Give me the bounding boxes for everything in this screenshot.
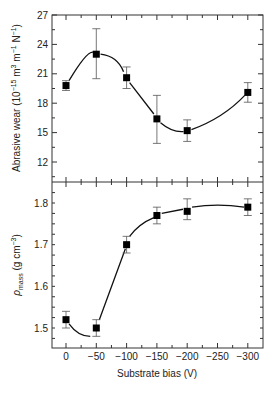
data-point [153,115,160,122]
data-point [63,316,70,323]
x-tick-labels: 0−50−100−150−200−250−300 [63,351,259,362]
data-point [123,74,130,81]
x-tick-label: −150 [146,351,169,362]
data-point [184,208,191,215]
y-tick-label: 27 [37,10,49,21]
y-tick-label: 15 [37,127,49,138]
x-tick-label: −300 [237,351,260,362]
data-point [123,241,130,248]
plot-frame [52,15,263,348]
x-tick-label: −200 [176,351,199,362]
x-tick-label: −100 [115,351,138,362]
top-y-ticks: 272421181512 [37,10,263,177]
y-tick-label: 12 [37,157,49,168]
chart-canvas: 0−50−100−150−200−250−300Substrate bias (… [0,0,277,393]
data-point [93,325,100,332]
data-point [93,51,100,58]
x-tick-label: −250 [206,351,229,362]
y-tick-label: 21 [37,68,49,79]
x-axis-label: Substrate bias (V) [117,368,197,379]
data-point [244,204,251,211]
x-tick-label: 0 [63,351,69,362]
x-tick-label: −50 [88,351,105,362]
y-tick-label: 1.7 [34,239,48,250]
top-y-axis-label: Abrasive wear (10−15 m3 m−1 N−1) [10,24,22,172]
y-tick-label: 1.6 [34,281,48,292]
fit-curve [69,205,244,336]
bottom-y-axis-label: ρmass (g cm−3) [10,234,24,297]
y-tick-label: 18 [37,98,49,109]
data-point [244,89,251,96]
data-point [63,82,70,89]
data-point [153,212,160,219]
y-tick-label: 24 [37,39,49,50]
abrasive-wear-series [62,29,252,144]
y-tick-label: 1.8 [34,198,48,209]
data-point [184,127,191,134]
y-tick-label: 1.5 [34,323,48,334]
mass-density-series [62,199,252,337]
